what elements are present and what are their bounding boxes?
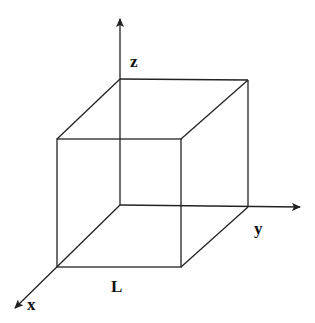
- x-axis: [15, 205, 120, 308]
- x-axis-label: x: [27, 295, 36, 314]
- cube-edge-top-right: [181, 80, 248, 139]
- cube-edge-back-top: [120, 79, 248, 80]
- cube-edge-top-left: [57, 79, 120, 139]
- z-axis-label: z: [130, 52, 138, 71]
- y-axis: [120, 205, 300, 207]
- cube-edge-bottom-right: [181, 207, 248, 267]
- y-axis-label: y: [254, 219, 263, 238]
- side-length-label: L: [111, 277, 122, 296]
- cube-diagram: z y x L: [0, 0, 315, 323]
